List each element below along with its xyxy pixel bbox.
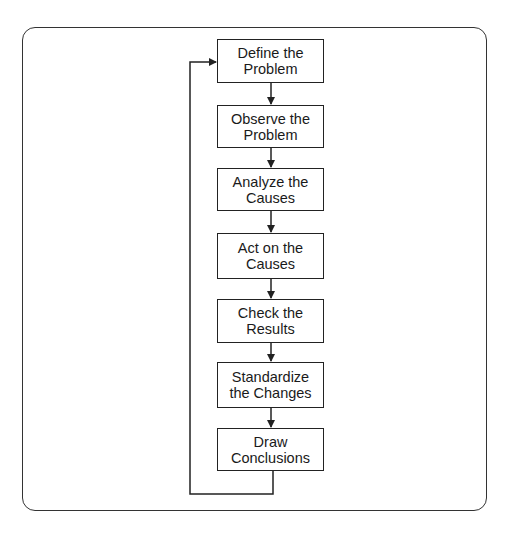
step-define-problem: Define the Problem xyxy=(217,39,324,83)
step-label-line2: the Changes xyxy=(229,385,311,401)
step-label-line2: Problem xyxy=(244,61,298,77)
step-observe-problem: Observe the Problem xyxy=(217,105,324,148)
step-check-results: Check the Results xyxy=(217,299,324,343)
step-draw-conclusions: Draw Conclusions xyxy=(217,428,324,471)
step-label-line1: Analyze the xyxy=(233,174,309,190)
step-analyze-causes: Analyze the Causes xyxy=(217,168,324,211)
step-label-line2: Results xyxy=(246,321,294,337)
step-label-line1: Check the xyxy=(238,305,303,321)
step-label-line2: Causes xyxy=(246,256,295,272)
step-standardize-changes: Standardize the Changes xyxy=(217,362,324,408)
step-act-on-causes: Act on the Causes xyxy=(217,233,324,279)
step-label-line1: Act on the xyxy=(238,240,303,256)
step-label-line1: Define the xyxy=(237,45,303,61)
step-label-line1: Standardize xyxy=(232,369,309,385)
step-label-line2: Causes xyxy=(246,190,295,206)
step-label-line1: Draw xyxy=(254,434,288,450)
step-label-line2: Conclusions xyxy=(231,450,310,466)
step-label-line2: Problem xyxy=(244,127,298,143)
step-label-line1: Observe the xyxy=(231,111,310,127)
